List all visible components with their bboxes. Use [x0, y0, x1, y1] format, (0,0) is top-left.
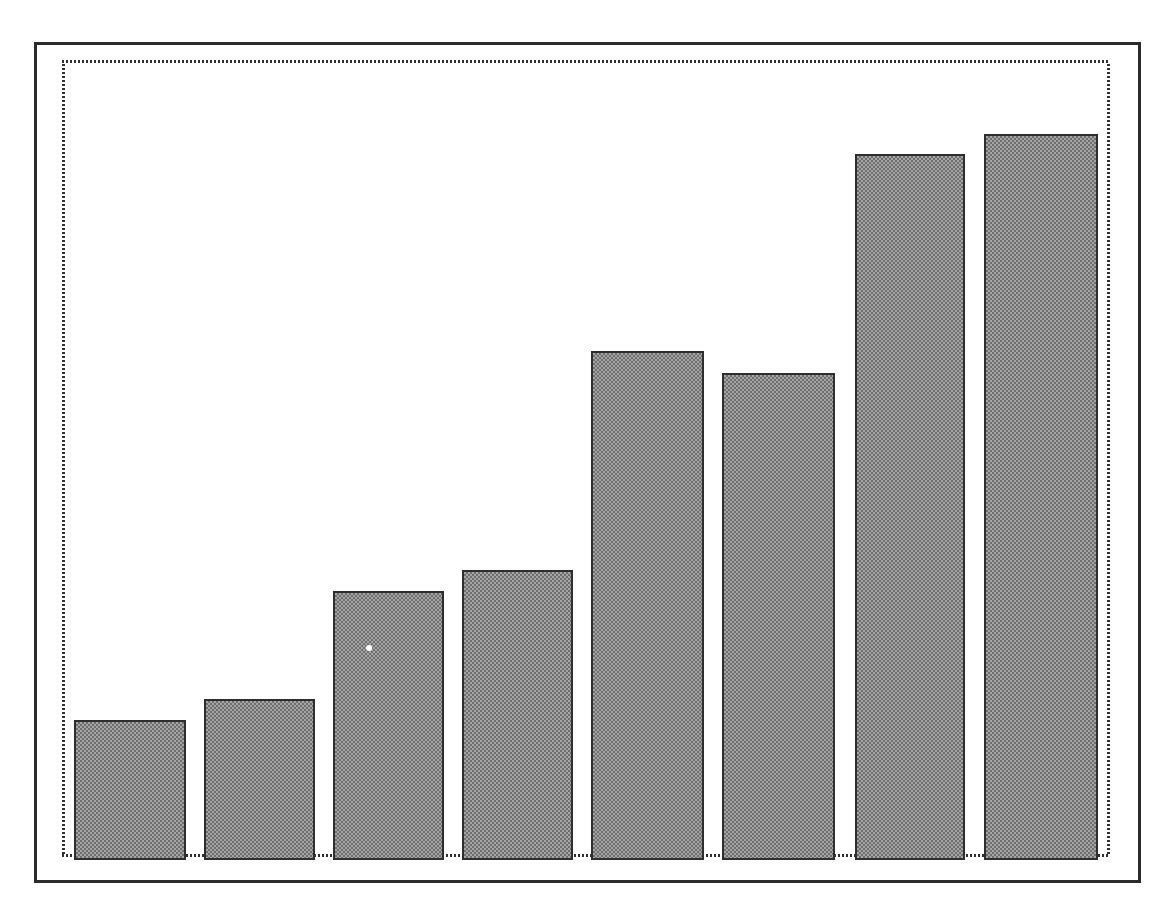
bar-3: [333, 591, 444, 860]
bar-2: [204, 699, 315, 860]
bar-7: [855, 154, 965, 860]
bar-8: [984, 134, 1098, 860]
chart-page: [0, 0, 1165, 922]
bar-1: [74, 720, 186, 860]
white-speck: [366, 645, 372, 651]
bar-5: [591, 351, 704, 860]
bar-6: [722, 373, 835, 860]
bars-layer: [0, 0, 1165, 922]
bar-4: [462, 570, 573, 860]
